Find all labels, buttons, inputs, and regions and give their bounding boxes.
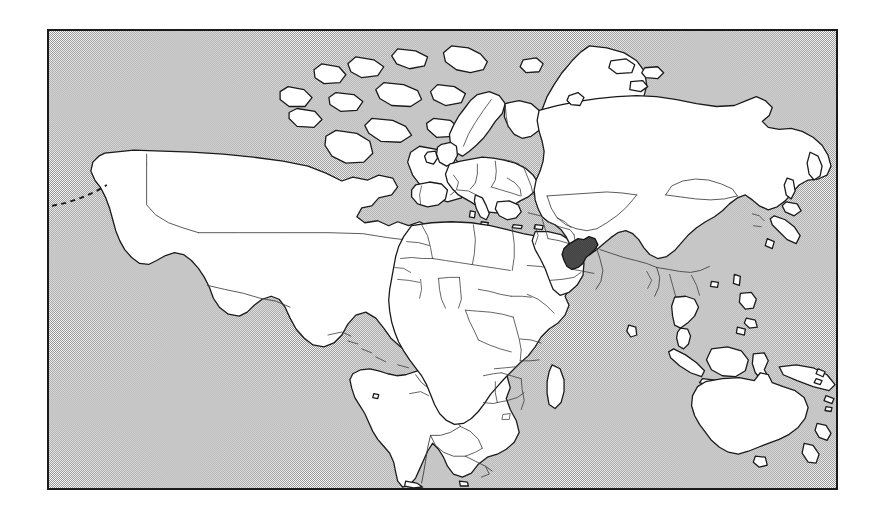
map-frame — [47, 29, 838, 490]
land-svalbard — [520, 58, 543, 73]
land-sardinia — [469, 211, 475, 218]
land-crete — [512, 225, 522, 229]
land-hainan — [710, 281, 718, 287]
world-map-canvas — [49, 31, 836, 488]
land-madagascar — [547, 365, 564, 409]
land-falkland-islands — [459, 481, 468, 486]
land-philippines-3 — [736, 327, 745, 335]
land-taiwan — [733, 274, 740, 285]
world-map-figure: World map locating Afghanistan — [0, 0, 883, 525]
land-galapagos — [373, 394, 379, 399]
land-ireland — [425, 151, 438, 164]
land-fiji — [825, 407, 832, 412]
figure-title: World map locating Afghanistan — [0, 0, 1, 1]
land-arctic-island-13 — [642, 67, 664, 79]
